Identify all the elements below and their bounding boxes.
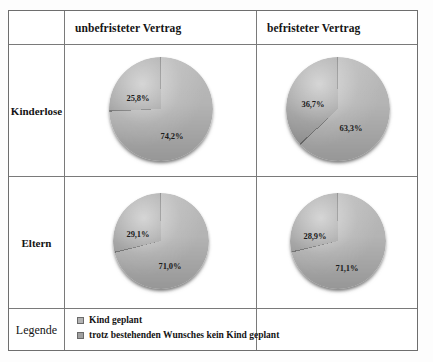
column-header-unbefristeter-vertrag: unbefristeter Vertrag bbox=[65, 11, 256, 44]
pie-label-2-large: 63,3% bbox=[340, 123, 363, 133]
chart-cell-eltern-befristet: 28,9% 71,1% bbox=[257, 177, 418, 308]
legend-label-kind-geplant: Kind geplant bbox=[89, 315, 142, 325]
pie-chart-eltern-befristet: 28,9% 71,1% bbox=[286, 189, 390, 297]
comparison-table: unbefristeter Vertrag befristeter Vertra… bbox=[8, 10, 418, 351]
row-label-legende: Legende bbox=[9, 309, 64, 351]
pie-slices bbox=[113, 193, 209, 289]
pie-slices bbox=[109, 57, 213, 161]
pie-label-3-large: 71,0% bbox=[159, 261, 182, 271]
pie-chart-kinderlose-befristet: 36,7% 63,3% bbox=[282, 53, 394, 169]
pie-disc bbox=[286, 57, 390, 161]
pie-label-3-small: 29,1% bbox=[127, 229, 150, 239]
pie-label-4-small: 28,9% bbox=[304, 231, 327, 241]
pie-slices bbox=[290, 193, 386, 289]
row-label-kinderlose: Kinderlose bbox=[9, 45, 64, 176]
legend: Kind geplant trotz bestehenden Wunsches … bbox=[65, 309, 418, 351]
chart-cell-kinderlose-unbefristet: 25,8% 74,2% bbox=[65, 45, 256, 176]
pie-label-1-small: 25,8% bbox=[127, 93, 150, 103]
legend-label-kein-kind-geplant: trotz bestehenden Wunsches kein Kind gep… bbox=[89, 330, 279, 340]
legend-swatch-icon bbox=[77, 317, 84, 324]
pie-chart-eltern-unbefristet: 29,1% 71,0% bbox=[109, 189, 213, 297]
column-header-befristeter-vertrag: befristeter Vertrag bbox=[257, 11, 418, 44]
chart-cell-eltern-unbefristet: 29,1% 71,0% bbox=[65, 177, 256, 308]
pie-disc bbox=[113, 193, 209, 289]
pie-label-1-large: 74,2% bbox=[161, 131, 184, 141]
legend-item-kein-kind-geplant: trotz bestehenden Wunsches kein Kind gep… bbox=[77, 330, 418, 340]
pie-label-4-large: 71,1% bbox=[336, 263, 359, 273]
pie-disc bbox=[290, 193, 386, 289]
legend-swatch-icon bbox=[77, 332, 84, 339]
pie-slices bbox=[286, 57, 390, 161]
chart-cell-kinderlose-befristet: 36,7% 63,3% bbox=[257, 45, 418, 176]
legend-item-kind-geplant: Kind geplant bbox=[77, 315, 418, 325]
pie-chart-kinderlose-unbefristet: 25,8% 74,2% bbox=[105, 53, 217, 169]
pie-label-2-small: 36,7% bbox=[302, 99, 325, 109]
figure-sheet: unbefristeter Vertrag befristeter Vertra… bbox=[0, 0, 433, 362]
row-label-eltern: Eltern bbox=[9, 177, 64, 308]
pie-disc bbox=[109, 57, 213, 161]
